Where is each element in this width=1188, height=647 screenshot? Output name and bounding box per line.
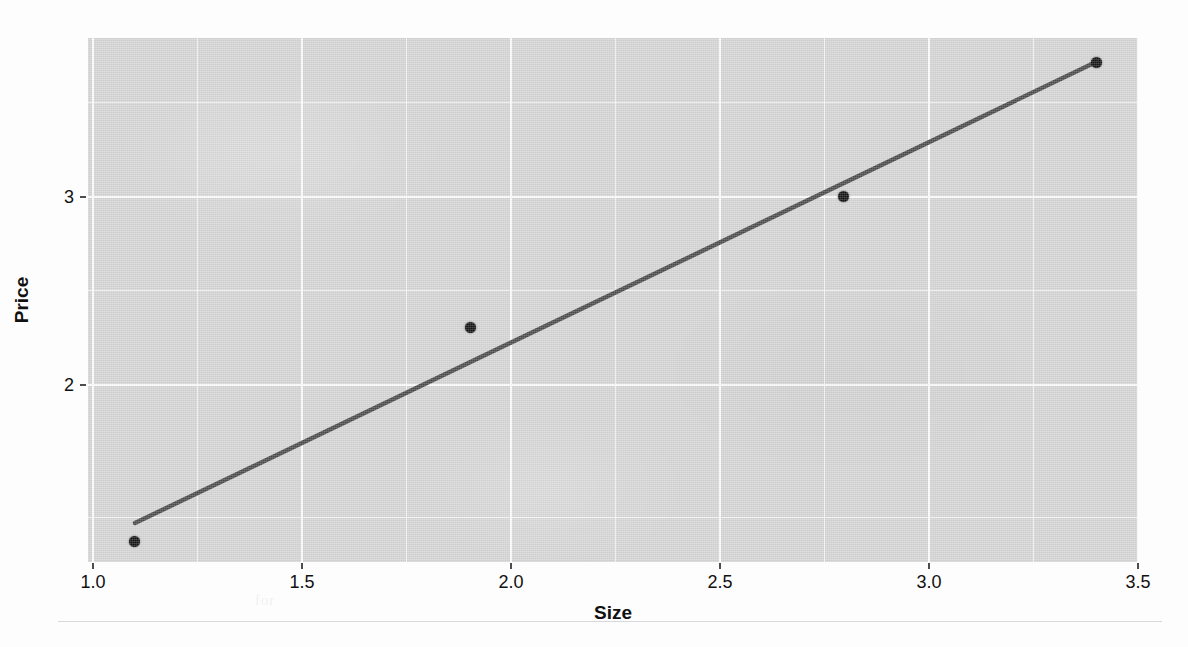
scatter-plot-figure: 1.0 1.5 2.0 2.5 3.0 3.5 3 2 Size Price xyxy=(0,0,1188,647)
x-axis-tick-label: 3.0 xyxy=(916,572,941,593)
x-axis-tick-2.0 xyxy=(510,563,512,569)
x-axis-tick-3.0 xyxy=(928,563,930,569)
x-axis-tick-label: 1.0 xyxy=(80,572,105,593)
x-axis-tick-label: 1.5 xyxy=(289,572,314,593)
y-axis-tick-label: 2 xyxy=(64,375,74,396)
x-axis-tick-1.0 xyxy=(92,563,94,569)
plot-panel xyxy=(88,38,1138,562)
data-point[interactable] xyxy=(1091,57,1102,68)
x-axis-tick-label: 2.0 xyxy=(498,572,523,593)
x-axis-tick-3.5 xyxy=(1137,563,1139,569)
regression-line xyxy=(88,38,1138,562)
data-point[interactable] xyxy=(465,322,476,333)
x-axis-tick-label: 3.5 xyxy=(1125,572,1150,593)
regression-line-segment xyxy=(135,62,1096,523)
data-series-layer xyxy=(88,38,1138,562)
y-axis-title: Price xyxy=(11,277,33,323)
x-axis-title: Size xyxy=(594,602,632,624)
y-axis-tick-label: 3 xyxy=(64,187,74,208)
x-axis-tick-label: 2.5 xyxy=(707,572,732,593)
data-point[interactable] xyxy=(838,191,849,202)
y-axis-tick-3 xyxy=(80,196,86,198)
y-axis-tick-2 xyxy=(80,384,86,386)
x-axis-tick-2.5 xyxy=(719,563,721,569)
x-axis-tick-1.5 xyxy=(301,563,303,569)
data-point[interactable] xyxy=(129,536,140,547)
